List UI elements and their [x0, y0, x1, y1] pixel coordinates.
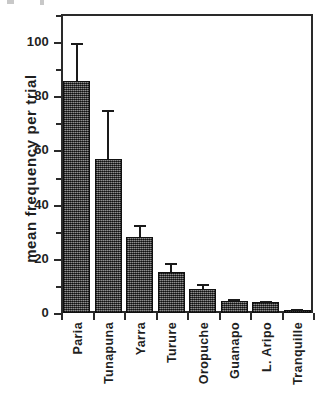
y-axis-title: mean frequency per trial	[22, 19, 39, 319]
x-category-label: L. Aripo	[260, 322, 274, 372]
x-tick	[61, 313, 63, 320]
y-tick-major	[54, 259, 61, 261]
error-bar-stem	[107, 110, 109, 159]
error-bar-cap	[197, 284, 209, 286]
x-tick	[313, 313, 315, 320]
x-tick	[219, 313, 221, 320]
bar	[189, 289, 216, 313]
y-tick-major	[54, 313, 61, 315]
x-tick	[156, 313, 158, 320]
y-tick-label: 0	[0, 305, 49, 320]
y-tick-major	[54, 42, 61, 44]
y-tick-major	[54, 150, 61, 152]
x-category-label: Yarra	[134, 322, 148, 355]
x-category-label: Oropuche	[197, 322, 211, 384]
error-bar-cap	[260, 301, 272, 303]
bar	[252, 302, 279, 313]
error-bar-cap	[291, 309, 303, 311]
bar	[63, 81, 90, 313]
y-tick-major	[54, 96, 61, 98]
y-tick-label: 40	[0, 197, 49, 212]
scan-artifact	[7, 0, 14, 4]
x-category-label: Paria	[71, 322, 85, 355]
x-category-label: Turure	[165, 322, 179, 363]
error-bar-cap	[102, 110, 114, 112]
y-tick-major	[54, 205, 61, 207]
x-tick	[124, 313, 126, 320]
x-tick	[282, 313, 284, 320]
x-tick	[187, 313, 189, 320]
y-tick-label: 20	[0, 251, 49, 266]
y-tick-label: 80	[0, 88, 49, 103]
bar	[126, 237, 153, 313]
error-bar-cap	[228, 299, 240, 301]
error-bar-cap	[134, 225, 146, 227]
x-category-label: Tunapuna	[102, 322, 116, 384]
y-tick-label: 100	[0, 34, 49, 49]
error-bar-cap	[71, 43, 83, 45]
bar	[221, 301, 248, 313]
error-bar-cap	[165, 263, 177, 265]
scan-artifact	[40, 0, 44, 5]
x-tick	[93, 313, 95, 320]
x-category-label: Tranquille	[291, 322, 305, 385]
bar	[158, 272, 185, 313]
y-tick-label: 60	[0, 142, 49, 157]
bar	[95, 159, 122, 313]
x-tick	[250, 313, 252, 320]
error-bar-stem	[76, 43, 78, 81]
x-category-label: Guanapo	[228, 322, 242, 379]
bar-chart-figure: mean frequency per trial 020406080100 Pa…	[0, 0, 325, 394]
